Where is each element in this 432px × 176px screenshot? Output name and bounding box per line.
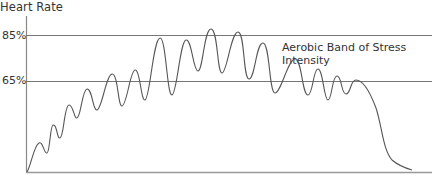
heart-rate-chart: Heart Rate 85% 65% Aerobic Band of Stres…	[0, 0, 432, 176]
plot-area	[0, 0, 432, 176]
heart-rate-line	[27, 29, 412, 172]
